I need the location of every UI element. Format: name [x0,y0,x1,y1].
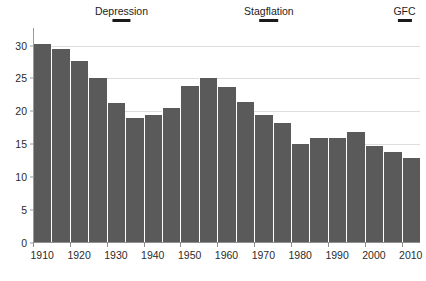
x-axis-tick-label: 2010 [399,249,422,261]
x-axis-tick-label: 1990 [325,249,348,261]
x-axis-tick-mark [70,243,71,247]
bar [365,146,383,243]
x-axis-tick-mark [144,243,145,247]
plot-area: 051015202530 191019201930194019501960197… [33,35,420,243]
bar [144,115,162,243]
y-axis-tick-label: 15 [15,138,27,150]
bar [70,61,88,243]
x-axis-tick-mark [291,243,292,247]
y-axis-tick-label: 30 [15,40,27,52]
bar [199,78,217,243]
gridline [33,46,420,47]
x-axis-tick-mark [402,243,403,247]
period-annotation-label: GFC [393,5,415,17]
y-axis-tick-mark [30,177,33,178]
bar [51,49,69,243]
period-annotation: Stagflation [244,5,294,22]
bar [383,152,401,243]
x-axis-tick-label: 1940 [141,249,164,261]
clipped-title-text [0,0,426,6]
x-axis-tick-mark [217,243,218,247]
bar [254,115,272,243]
y-axis-tick-mark [30,45,33,46]
bar [217,87,235,243]
period-annotation: GFC [393,5,415,22]
bar [328,138,346,243]
period-annotation: Depression [95,5,148,22]
bar [291,144,309,243]
period-annotation-label: Stagflation [244,5,294,17]
x-axis-tick-label: 1930 [104,249,127,261]
chart-figure: 051015202530 191019201930194019501960197… [0,0,426,281]
period-annotation-bar [112,19,130,22]
x-axis-tick-label: 1980 [289,249,312,261]
bar [88,78,106,243]
y-axis-tick-label: 5 [21,204,27,216]
x-axis-tick-label: 1970 [252,249,275,261]
bar [273,123,291,243]
x-axis-tick-mark [33,243,34,247]
x-axis-tick-mark [254,243,255,247]
x-axis-line [33,242,420,243]
bar [107,103,125,243]
x-axis-tick-label: 1950 [178,249,201,261]
period-annotation-bar [260,19,278,22]
x-axis-tick-label: 1960 [215,249,238,261]
y-axis-tick-mark [30,111,33,112]
x-axis-tick-mark [180,243,181,247]
bar [33,44,51,243]
y-axis-tick-label: 0 [21,237,27,249]
y-axis-tick-mark [30,210,33,211]
period-annotation-bar [398,19,412,22]
bar [180,86,198,243]
x-axis-tick-mark [107,243,108,247]
bar [309,138,327,243]
bar [162,108,180,243]
y-axis-tick-label: 10 [15,171,27,183]
bar [402,158,420,243]
x-axis-tick-label: 1920 [67,249,90,261]
y-axis-tick-label: 25 [15,72,27,84]
x-axis-tick-mark [365,243,366,247]
y-axis-line [33,28,34,243]
x-axis-tick-label: 1910 [31,249,54,261]
bar [125,118,143,243]
y-axis-tick-label: 20 [15,105,27,117]
y-axis-tick-mark [30,144,33,145]
x-axis-tick-label: 2000 [362,249,385,261]
bar [346,132,364,243]
x-axis-tick-mark [328,243,329,247]
period-annotation-label: Depression [95,5,148,17]
bar [236,102,254,243]
y-axis-tick-mark [30,78,33,79]
